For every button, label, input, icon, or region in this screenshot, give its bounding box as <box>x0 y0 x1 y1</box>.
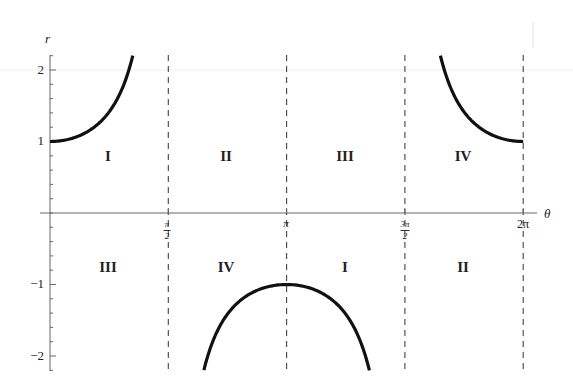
x-tick-pi-half: π2 <box>164 216 171 241</box>
quadrant-label-upper-1: I <box>105 148 111 165</box>
y-tick-2: 2 <box>14 62 44 78</box>
r-axis-label: r <box>45 31 50 47</box>
theta-axis-label: θ <box>544 206 550 222</box>
polar-sec-graph <box>0 0 573 391</box>
x-tick-3pi-half: 3π2 <box>400 216 409 241</box>
sec-curve-branch-1 <box>50 56 133 142</box>
sec-curve-branch-3 <box>440 56 523 142</box>
quadrant-label-lower-3: I <box>342 259 348 276</box>
quadrant-label-lower-1: III <box>99 259 117 276</box>
x-tick-3pi-half-den: 2 <box>403 232 408 241</box>
y-tick-minus-2: −2 <box>14 348 44 364</box>
quadrant-label-upper-2: II <box>220 148 232 165</box>
y-tick-1: 1 <box>14 133 44 149</box>
quadrant-label-upper-3: III <box>336 148 354 165</box>
x-tick-pi-half-num: π <box>165 220 170 229</box>
x-tick-pi-half-den: 2 <box>165 232 170 241</box>
x-tick-pi: π <box>283 217 289 229</box>
x-tick-3pi-half-num: 3π <box>400 220 409 229</box>
quadrant-label-upper-4: IV <box>455 148 472 165</box>
quadrant-label-lower-2: IV <box>218 259 235 276</box>
quadrant-label-lower-4: II <box>457 259 469 276</box>
x-tick-2pi: 2π <box>517 217 529 232</box>
y-tick-minus-1: −1 <box>14 276 44 292</box>
